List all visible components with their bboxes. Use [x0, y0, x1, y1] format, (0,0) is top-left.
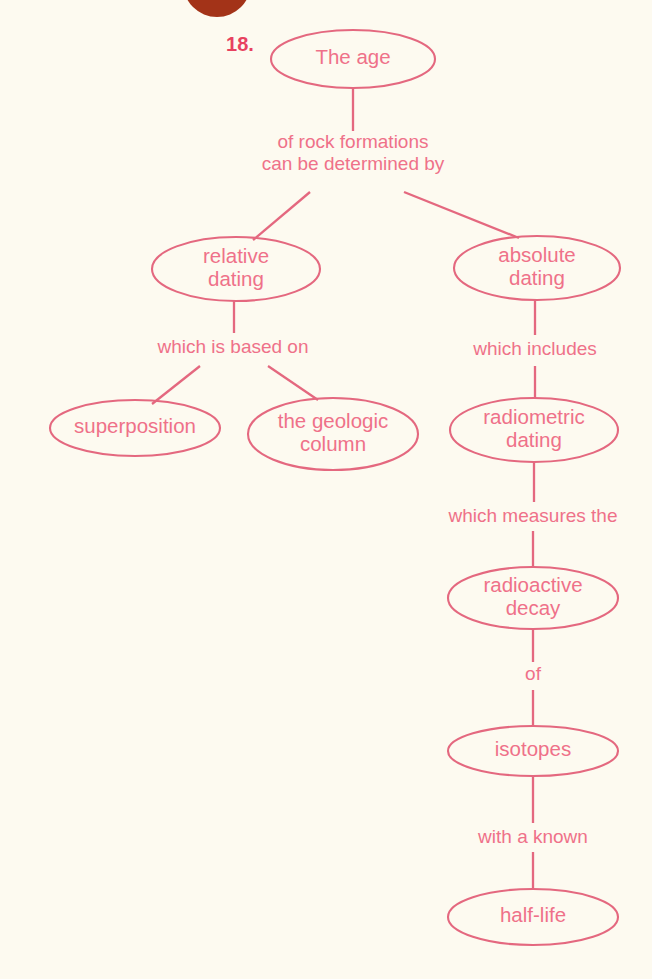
- link-phrase-line: which is based on: [156, 336, 308, 357]
- concept-node-radiometric[interactable]: radiometricdating: [450, 398, 618, 462]
- link-phrase-line: which includes: [472, 338, 597, 359]
- concept-node-halflife[interactable]: half-life: [448, 889, 618, 945]
- item-number-layer: 18.: [226, 33, 254, 55]
- node-label-geologic: the geologiccolumn: [278, 409, 389, 455]
- link-phrase-line: of rock formations: [278, 131, 429, 152]
- concept-map-canvas: of rock formationscan be determined bywh…: [0, 0, 652, 979]
- node-label-line: dating: [208, 267, 264, 290]
- link-phrase: of: [525, 663, 542, 684]
- link-phrase-line: can be determined by: [262, 153, 445, 174]
- node-label-absolute: absolutedating: [498, 243, 576, 289]
- node-label-line: isotopes: [495, 737, 571, 760]
- node-label-line: The age: [315, 45, 390, 68]
- node-label-line: dating: [506, 428, 562, 451]
- node-label-line: the geologic: [278, 409, 389, 432]
- node-label-line: radioactive: [483, 573, 582, 596]
- item-number: 18.: [226, 33, 254, 55]
- link-phrase-line: of: [525, 663, 542, 684]
- node-label-isotopes: isotopes: [495, 737, 571, 760]
- node-label-line: superposition: [74, 414, 196, 437]
- connector-line: [253, 192, 310, 240]
- link-phrase: which is based on: [156, 336, 308, 357]
- node-label-line: decay: [506, 596, 561, 619]
- concept-map-page: of rock formationscan be determined bywh…: [0, 0, 652, 979]
- node-label-line: relative: [203, 244, 269, 267]
- concept-node-superposition[interactable]: superposition: [50, 400, 220, 456]
- concept-node-isotopes[interactable]: isotopes: [448, 726, 618, 776]
- page-bleed-blob-icon: [183, 0, 251, 17]
- concept-node-radioactive[interactable]: radioactivedecay: [448, 567, 618, 629]
- concept-node-age[interactable]: The age: [271, 30, 435, 88]
- link-phrase-line: with a known: [477, 826, 588, 847]
- connector-line: [268, 366, 318, 400]
- node-label-line: dating: [509, 266, 565, 289]
- node-label-radioactive: radioactivedecay: [483, 573, 582, 619]
- concept-node-relative[interactable]: relativedating: [152, 237, 320, 301]
- link-phrase-line: which measures the: [448, 505, 618, 526]
- node-label-line: radiometric: [483, 405, 584, 428]
- node-label-line: absolute: [498, 243, 576, 266]
- node-label-halflife: half-life: [500, 903, 566, 926]
- link-phrase: of rock formationscan be determined by: [262, 131, 445, 174]
- link-phrase: with a known: [477, 826, 588, 847]
- link-phrase: which includes: [472, 338, 597, 359]
- top-blob-decoration: [183, 0, 251, 17]
- node-label-age: The age: [315, 45, 390, 68]
- link-phrase: which measures the: [448, 505, 618, 526]
- connector-line: [152, 366, 200, 404]
- concept-node-geologic[interactable]: the geologiccolumn: [248, 398, 418, 470]
- concept-node-absolute[interactable]: absolutedating: [454, 236, 620, 300]
- node-label-line: half-life: [500, 903, 566, 926]
- node-label-line: column: [300, 432, 366, 455]
- edge-layer: [152, 88, 535, 889]
- node-label-superposition: superposition: [74, 414, 196, 437]
- connector-line: [404, 192, 519, 238]
- node-label-radiometric: radiometricdating: [483, 405, 584, 451]
- node-label-relative: relativedating: [203, 244, 269, 290]
